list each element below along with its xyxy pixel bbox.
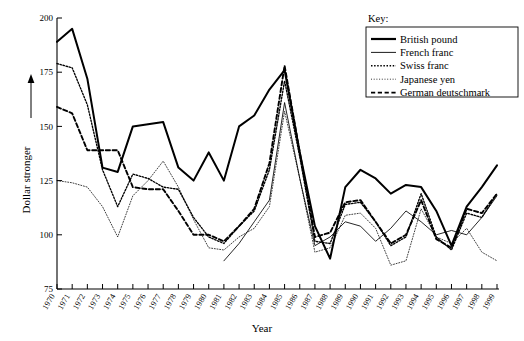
y-axis-title-group: Dollar stronger bbox=[20, 74, 34, 213]
x-tick-label: 1982 bbox=[223, 293, 239, 312]
x-tick-label: 1970 bbox=[41, 293, 57, 312]
x-tick-label: 1977 bbox=[147, 293, 163, 312]
x-tick-label: 1998 bbox=[466, 293, 482, 312]
x-tick-label: 1974 bbox=[101, 293, 117, 312]
legend-label-japanese-yen: Japanese yen bbox=[400, 74, 456, 85]
y-axis-ticks: 75100125150175200 bbox=[40, 13, 63, 294]
legend-title: Key: bbox=[368, 13, 388, 24]
y-tick-label: 200 bbox=[40, 13, 54, 23]
x-tick-label: 1993 bbox=[390, 293, 406, 312]
x-tick-label: 1997 bbox=[450, 293, 466, 312]
x-axis-ticks: 1970197119721973197419751976197719781979… bbox=[41, 284, 497, 311]
y-axis-title: Dollar stronger bbox=[20, 146, 32, 213]
legend-label-british-pound: British pound bbox=[400, 34, 458, 45]
x-tick-label: 1995 bbox=[420, 293, 436, 312]
x-tick-label: 1994 bbox=[405, 293, 421, 312]
x-tick-label: 1972 bbox=[71, 293, 87, 312]
legend: Key: British poundFrench francSwiss fran… bbox=[366, 13, 518, 98]
x-tick-label: 1979 bbox=[177, 293, 193, 312]
x-tick-label: 1992 bbox=[375, 293, 391, 312]
x-tick-label: 1975 bbox=[117, 293, 133, 312]
x-tick-label: 1987 bbox=[299, 293, 315, 312]
x-tick-label: 1971 bbox=[56, 293, 72, 312]
x-tick-label: 1976 bbox=[132, 293, 148, 312]
x-tick-label: 1980 bbox=[192, 293, 208, 312]
legend-label-swiss-franc: Swiss franc bbox=[400, 60, 449, 71]
x-tick-label: 1984 bbox=[253, 293, 269, 312]
x-tick-label: 1988 bbox=[314, 293, 330, 312]
x-tick-label: 1990 bbox=[344, 293, 360, 312]
legend-label-french-franc: French franc bbox=[400, 47, 454, 58]
dollar-stronger-arrow-head bbox=[28, 74, 35, 83]
y-axis-group: 75100125150175200 bbox=[40, 13, 63, 294]
y-tick-label: 175 bbox=[40, 67, 54, 77]
y-tick-label: 125 bbox=[40, 176, 54, 186]
x-tick-label: 1973 bbox=[86, 293, 102, 312]
x-tick-label: 1986 bbox=[284, 293, 300, 312]
x-tick-label: 1991 bbox=[359, 293, 375, 312]
y-tick-label: 150 bbox=[40, 122, 54, 132]
currency-exchange-line-chart: 75100125150175200 1970197119721973197419… bbox=[0, 0, 524, 341]
x-axis-group: 1970197119721973197419751976197719781979… bbox=[41, 284, 499, 311]
x-tick-label: 1985 bbox=[268, 293, 284, 312]
series-line-japanese-yen bbox=[57, 111, 497, 265]
x-axis-title: Year bbox=[252, 322, 273, 334]
x-tick-label: 1981 bbox=[208, 293, 224, 312]
chart-canvas: 75100125150175200 1970197119721973197419… bbox=[0, 0, 524, 341]
x-tick-label: 1983 bbox=[238, 293, 254, 312]
legend-label-german-deutschmark: German deutschmark bbox=[400, 87, 491, 98]
y-tick-label: 100 bbox=[40, 230, 54, 240]
x-tick-label: 1996 bbox=[435, 293, 451, 312]
x-tick-label: 1999 bbox=[481, 293, 497, 312]
x-tick-label: 1989 bbox=[329, 293, 345, 312]
x-tick-label: 1978 bbox=[162, 293, 178, 312]
